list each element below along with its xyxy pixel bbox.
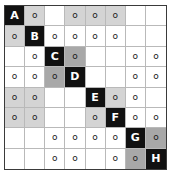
- cell-mark: o: [133, 93, 139, 102]
- cell-mark: o: [92, 32, 98, 41]
- grid-cell[interactable]: [106, 47, 126, 67]
- grid-cell[interactable]: o: [106, 128, 126, 148]
- grid-cell[interactable]: o: [25, 47, 45, 67]
- grid-cell[interactable]: o: [86, 128, 106, 148]
- cell-mark: o: [12, 93, 18, 102]
- cell-mark: o: [32, 93, 38, 102]
- grid-cell-label-a[interactable]: A: [5, 6, 25, 26]
- cell-mark: o: [52, 133, 58, 142]
- grid-cell-label-d[interactable]: D: [65, 67, 85, 87]
- grid-cell[interactable]: o: [86, 6, 106, 26]
- cell-mark: o: [52, 72, 58, 81]
- grid-cell[interactable]: [146, 26, 166, 46]
- cell-letter: D: [70, 71, 79, 82]
- grid-cell[interactable]: [25, 128, 45, 148]
- grid-cell[interactable]: [146, 88, 166, 108]
- cell-letter: E: [91, 92, 99, 103]
- grid-cell[interactable]: [45, 88, 65, 108]
- grid-cell-label-h[interactable]: H: [146, 149, 166, 169]
- grid-cell[interactable]: o: [25, 67, 45, 87]
- grid-cell[interactable]: o: [5, 26, 25, 46]
- puzzle-frame: AoooooBoooooCooooooDooooEoooooFooooooGoo…: [4, 5, 167, 170]
- cell-mark: o: [72, 133, 78, 142]
- grid-cell[interactable]: o: [126, 149, 146, 169]
- grid-cell[interactable]: o: [65, 26, 85, 46]
- cell-mark: o: [133, 72, 139, 81]
- grid-cell[interactable]: o: [126, 108, 146, 128]
- grid-cell[interactable]: o: [106, 88, 126, 108]
- cell-letter: F: [111, 112, 119, 123]
- grid-cell[interactable]: o: [5, 88, 25, 108]
- grid-cell[interactable]: [146, 6, 166, 26]
- grid-cell[interactable]: o: [126, 88, 146, 108]
- grid-cell[interactable]: [106, 67, 126, 87]
- cell-mark: o: [32, 11, 38, 20]
- cell-mark: o: [12, 32, 18, 41]
- grid-cell-label-g[interactable]: G: [126, 128, 146, 148]
- grid-cell[interactable]: o: [146, 108, 166, 128]
- grid-cell[interactable]: o: [106, 6, 126, 26]
- cell-mark: o: [32, 113, 38, 122]
- grid-cell[interactable]: [25, 149, 45, 169]
- grid-cell[interactable]: [5, 149, 25, 169]
- grid-cell[interactable]: o: [86, 26, 106, 46]
- cell-letter: A: [10, 10, 19, 21]
- grid-cell[interactable]: o: [86, 108, 106, 128]
- cell-mark: o: [153, 52, 159, 61]
- grid-cell-label-e[interactable]: E: [86, 88, 106, 108]
- grid-cell[interactable]: o: [45, 26, 65, 46]
- grid-cell[interactable]: o: [65, 149, 85, 169]
- cell-mark: o: [133, 52, 139, 61]
- cell-mark: o: [133, 154, 139, 163]
- grid-cell[interactable]: o: [146, 67, 166, 87]
- grid-cell[interactable]: o: [146, 128, 166, 148]
- cell-mark: o: [52, 32, 58, 41]
- cell-mark: o: [112, 11, 118, 20]
- grid-cell[interactable]: [65, 108, 85, 128]
- grid-cell[interactable]: [45, 6, 65, 26]
- grid-cell[interactable]: o: [126, 67, 146, 87]
- cell-mark: o: [52, 154, 58, 163]
- grid-cell[interactable]: [86, 67, 106, 87]
- cell-mark: o: [153, 72, 159, 81]
- grid-cell[interactable]: o: [25, 6, 45, 26]
- cell-mark: o: [72, 32, 78, 41]
- cell-mark: o: [12, 72, 18, 81]
- grid-cell[interactable]: [45, 108, 65, 128]
- grid-cell[interactable]: o: [65, 6, 85, 26]
- grid-cell[interactable]: [65, 88, 85, 108]
- grid-cell[interactable]: o: [45, 67, 65, 87]
- grid-cell[interactable]: [5, 128, 25, 148]
- cell-mark: o: [92, 11, 98, 20]
- cell-mark: o: [92, 133, 98, 142]
- grid-cell[interactable]: o: [5, 67, 25, 87]
- grid-cell-label-f[interactable]: F: [106, 108, 126, 128]
- cell-mark: o: [133, 113, 139, 122]
- grid-cell[interactable]: [126, 26, 146, 46]
- grid-cell[interactable]: o: [65, 47, 85, 67]
- grid-cell[interactable]: o: [5, 108, 25, 128]
- cell-mark: o: [153, 133, 159, 142]
- grid-cell[interactable]: [86, 149, 106, 169]
- grid-cell[interactable]: o: [106, 26, 126, 46]
- grid-cell[interactable]: o: [45, 128, 65, 148]
- grid-cell[interactable]: o: [65, 128, 85, 148]
- grid-cell[interactable]: [126, 6, 146, 26]
- cell-mark: o: [12, 113, 18, 122]
- grid-cell[interactable]: o: [25, 108, 45, 128]
- cell-mark: o: [32, 52, 38, 61]
- grid-cell[interactable]: o: [106, 149, 126, 169]
- grid-cell[interactable]: o: [146, 47, 166, 67]
- cell-mark: o: [72, 154, 78, 163]
- grid-cell[interactable]: [86, 47, 106, 67]
- cell-mark: o: [112, 93, 118, 102]
- grid-cell[interactable]: o: [126, 47, 146, 67]
- cell-mark: o: [112, 32, 118, 41]
- cell-mark: o: [153, 113, 159, 122]
- grid-cell-label-c[interactable]: C: [45, 47, 65, 67]
- grid-cell-label-b[interactable]: B: [25, 26, 45, 46]
- cell-mark: o: [32, 72, 38, 81]
- grid-cell[interactable]: [5, 47, 25, 67]
- grid-cell[interactable]: o: [45, 149, 65, 169]
- grid-cell[interactable]: o: [25, 88, 45, 108]
